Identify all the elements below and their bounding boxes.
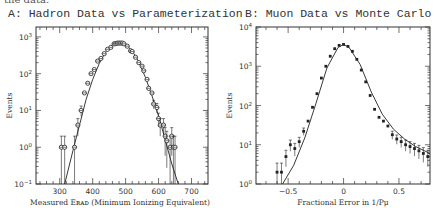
data-point <box>409 145 412 148</box>
data-point <box>302 130 305 133</box>
x-axis-label: Fractional Error in 1/Pμ <box>297 198 389 207</box>
data-point <box>413 147 416 150</box>
data-point <box>418 149 421 152</box>
plot-b: −0.500.5Fractional Error in 1/PμEvents <box>225 27 430 207</box>
chart-a-hadron: 300400500600700Measured Eʀᴀᴅ (Minimum Io… <box>0 0 434 208</box>
x-tick-label: 0.5 <box>393 187 405 196</box>
data-point <box>311 106 314 109</box>
data-point <box>307 120 310 123</box>
data-point <box>382 120 385 123</box>
data-point <box>364 80 367 83</box>
data-point <box>342 43 345 46</box>
data-point <box>391 133 394 136</box>
y-tick-label: 102 <box>239 101 252 111</box>
data-point <box>404 143 407 146</box>
y-axis-label: Events <box>5 92 14 118</box>
y-tick-label: 100 <box>19 142 33 152</box>
data-point <box>355 58 358 61</box>
data-point <box>324 65 327 68</box>
data-point <box>338 44 341 47</box>
data-point <box>395 138 398 141</box>
x-tick-label: 300 <box>53 187 68 196</box>
y-axis-label: Events <box>225 92 234 118</box>
x-axis-label: Measured Eʀᴀᴅ (Minimum Ionizing Equivale… <box>30 198 210 207</box>
data-point <box>298 140 301 143</box>
data-point <box>285 155 288 158</box>
data-point <box>347 45 350 48</box>
x-tick-label: −0.5 <box>279 187 297 196</box>
data-point <box>280 171 283 174</box>
data-point <box>333 47 336 50</box>
data-point <box>422 152 425 155</box>
data-point <box>320 77 323 80</box>
x-tick-label: 600 <box>151 187 166 196</box>
data-point <box>400 140 403 143</box>
data-point <box>351 50 354 53</box>
data-point <box>426 155 429 158</box>
plot-frame <box>36 27 208 184</box>
data-point <box>378 116 381 119</box>
data-point <box>316 92 319 95</box>
data-point <box>369 94 372 97</box>
data-point <box>289 143 292 146</box>
plot-frame <box>256 27 430 184</box>
y-tick-label: 103 <box>239 61 253 71</box>
x-tick-label: 500 <box>118 187 133 196</box>
plot-a: 300400500600700Measured Eʀᴀᴅ (Minimum Io… <box>5 27 210 207</box>
data-point <box>373 108 376 111</box>
y-tick-label: 10−1 <box>14 179 32 189</box>
y-tick-label: 102 <box>19 69 32 79</box>
data-point <box>329 55 332 58</box>
y-tick-label: 101 <box>19 105 32 115</box>
data-point <box>386 125 389 128</box>
fit-curve <box>283 44 430 184</box>
x-tick-label: 0 <box>341 187 346 196</box>
x-tick-label: 400 <box>86 187 101 196</box>
fit-curve <box>65 43 179 184</box>
y-tick-label: 101 <box>239 140 252 150</box>
y-tick-label: 104 <box>239 22 253 32</box>
data-point <box>293 147 296 150</box>
x-tick-label: 700 <box>184 187 199 196</box>
y-tick-label: 103 <box>19 32 33 42</box>
y-tick-label: 100 <box>239 179 253 189</box>
data-point <box>276 171 279 174</box>
data-point <box>360 69 363 72</box>
